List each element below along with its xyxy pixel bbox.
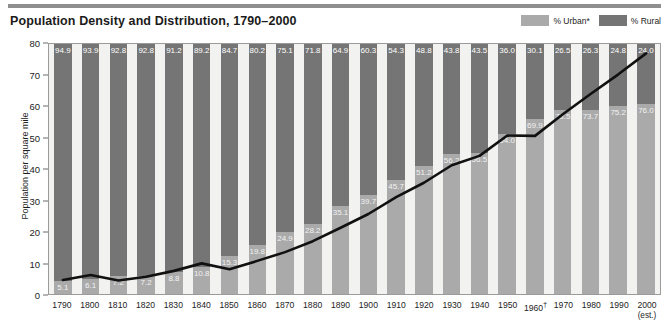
bar-segment-rural: 43.5 [471,44,488,153]
bar-segment-rural: 24.8 [609,44,626,106]
x-tick-1980: 1980 [577,297,605,331]
x-tick-1830: 1830 [159,297,187,331]
stacked-bar[interactable]: 48.851.2 [415,44,432,294]
bar-value-rural: 71.8 [305,47,321,55]
x-tick-1880: 1880 [299,297,327,331]
bar-segment-rural: 26.5 [554,44,571,110]
bar-slot: 75.124.9 [271,44,299,294]
stacked-bar[interactable]: 26.373.7 [582,44,599,294]
x-tick-label: 1950 [498,300,517,310]
stacked-bar[interactable]: 93.96.1 [82,44,99,294]
bar-value-urban: 45.7 [388,183,404,191]
y-tick-label: 70 [29,69,40,80]
y-tick-label: 30 [29,195,40,206]
x-tick-label: 1900 [359,300,378,310]
y-tick-20: 20 [0,227,48,238]
x-tick-label: 1980 [582,300,601,310]
bar-value-urban: 69.9 [527,122,543,130]
bar-value-urban: 28.2 [305,227,321,235]
bar-value-rural: 92.8 [138,47,154,55]
stacked-bar[interactable]: 80.219.8 [249,44,266,294]
x-tick-1940: 1940 [466,297,494,331]
bar-segment-urban: 35.1 [332,206,349,294]
x-tick-1840: 1840 [187,297,215,331]
bar-slot: 30.169.9 [521,44,549,294]
legend-label-urban: % Urban* [553,16,589,26]
bar-segment-urban: 69.9 [526,119,543,294]
bar-slot: 91.28.8 [160,44,188,294]
stacked-bar[interactable]: 84.715.3 [221,44,238,294]
x-tick-label: 1890 [331,300,350,310]
stacked-bar[interactable]: 43.856.2 [443,44,460,294]
y-tick-30: 30 [0,195,48,206]
bar-segment-urban: 24.9 [276,232,293,294]
bar-slot: 24.875.2 [604,44,632,294]
x-tick-1930: 1930 [438,297,466,331]
page-title: Population Density and Distribution, 179… [10,14,297,28]
bar-value-urban: 7.2 [113,279,124,287]
stacked-bar[interactable]: 92.87.2 [137,44,154,294]
bar-value-rural: 43.5 [472,47,488,55]
stacked-bar[interactable]: 89.210.8 [193,44,210,294]
bar-segment-urban: 7.2 [110,276,127,294]
bar-value-rural: 91.2 [166,47,182,55]
y-tick-label: 60 [29,101,40,112]
stacked-bar[interactable]: 43.556.5 [471,44,488,294]
x-tick-sublabel: (est.) [633,311,661,321]
bar-slot: 48.851.2 [410,44,438,294]
stacked-bar[interactable]: 91.28.8 [165,44,182,294]
bar-slot: 93.96.1 [77,44,105,294]
stacked-bar[interactable]: 60.339.7 [360,44,377,294]
stacked-bar[interactable]: 36.064.0 [498,44,515,294]
bar-value-rural: 36.0 [499,47,515,55]
x-tick-1810: 1810 [104,297,132,331]
bar-value-rural: 84.7 [222,47,238,55]
bar-value-urban: 8.8 [168,275,179,283]
bar-value-urban: 15.3 [222,259,238,267]
bar-segment-rural: 84.7 [221,44,238,256]
bar-value-urban: 51.2 [416,169,432,177]
x-axis: 1790180018101820183018401850186018701880… [48,297,661,331]
bar-value-rural: 93.9 [83,47,99,55]
x-tick-label: 1800 [80,300,99,310]
x-tick-label: 1870 [275,300,294,310]
stacked-bar[interactable]: 24.076.0 [637,44,654,294]
bar-value-rural: 24.0 [638,47,654,55]
bar-slot: 60.339.7 [354,44,382,294]
bar-value-urban: 19.8 [249,248,265,256]
stacked-bar[interactable]: 30.169.9 [526,44,543,294]
stacked-bar[interactable]: 64.935.1 [332,44,349,294]
bar-value-rural: 64.9 [333,47,349,55]
stacked-bar[interactable]: 94.95.1 [54,44,71,294]
legend-label-rural: % Rural [631,16,661,26]
y-tick-label: 0 [35,290,40,301]
bar-segment-urban: 39.7 [360,195,377,294]
bar-segment-urban: 76.0 [637,104,654,294]
x-tick-1820: 1820 [132,297,160,331]
stacked-bar[interactable]: 54.345.7 [387,44,404,294]
bar-value-rural: 30.1 [527,47,543,55]
legend-item-urban: % Urban* [521,15,589,26]
bar-segment-urban: 19.8 [249,245,266,295]
bar-segment-urban: 75.2 [609,106,626,294]
y-tick-50: 50 [0,132,48,143]
bar-value-urban: 56.5 [472,156,488,164]
bar-value-rural: 94.9 [55,47,71,55]
bar-value-rural: 80.2 [249,47,265,55]
x-tick-2000: 2000(est.) [633,297,661,331]
bar-segment-urban: 73.5 [554,110,571,294]
bar-value-urban: 64.0 [499,137,515,145]
stacked-bar[interactable]: 92.87.2 [110,44,127,294]
stacked-bar[interactable]: 75.124.9 [276,44,293,294]
stacked-bar[interactable]: 24.875.2 [609,44,626,294]
x-tick-label: 1990 [610,300,629,310]
bar-value-urban: 76.0 [638,107,654,115]
bar-segment-rural: 75.1 [276,44,293,232]
y-tick-60: 60 [0,101,48,112]
stacked-bar[interactable]: 71.828.2 [304,44,321,294]
x-tick-label: 2000 [637,300,656,310]
dagger-icon: † [543,300,547,309]
bar-value-urban: 75.2 [610,109,626,117]
stacked-bar[interactable]: 26.573.5 [554,44,571,294]
bar-segment-rural: 94.9 [54,44,71,281]
